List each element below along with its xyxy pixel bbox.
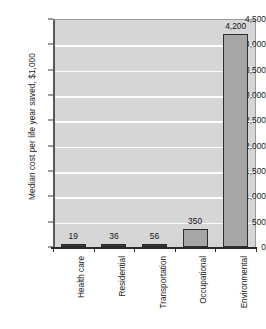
bar-value-label: 19 xyxy=(69,231,78,241)
bar-value-label: 350 xyxy=(188,216,202,226)
x-axis-tick-mark xyxy=(53,247,54,252)
bar-chart: Median cost per life year saved, $1,000 … xyxy=(0,0,266,329)
x-axis-tick-mark xyxy=(175,247,176,252)
bar-value-label: 56 xyxy=(150,231,159,241)
x-axis-line xyxy=(51,247,256,249)
bar-value-label: 36 xyxy=(109,231,118,241)
x-axis-tick-mark xyxy=(134,247,135,252)
x-axis-category-label: Health care xyxy=(77,256,86,298)
y-axis-title: Median cost per life year saved, $1,000 xyxy=(28,17,37,237)
bar[interactable] xyxy=(223,34,248,247)
bar-slot: 4,200 xyxy=(223,19,248,247)
x-axis-tick-mark xyxy=(94,247,95,252)
bar-value-label: 4,200 xyxy=(225,21,246,31)
bar[interactable] xyxy=(183,229,208,247)
x-axis-tick-mark xyxy=(256,247,257,252)
x-axis-tick-mark xyxy=(215,247,216,252)
bars-layer: 1936563504,200 xyxy=(53,19,256,247)
bar-slot: 19 xyxy=(61,19,86,247)
x-axis-category-label: Residential xyxy=(118,256,127,297)
bar-slot: 350 xyxy=(183,19,208,247)
bar-slot: 36 xyxy=(101,19,126,247)
x-axis-category-label: Occupational xyxy=(199,256,208,304)
x-axis-category-label: Transportation xyxy=(159,256,168,309)
bar-slot: 56 xyxy=(142,19,167,247)
x-axis-category-label: Environmental xyxy=(240,256,249,308)
